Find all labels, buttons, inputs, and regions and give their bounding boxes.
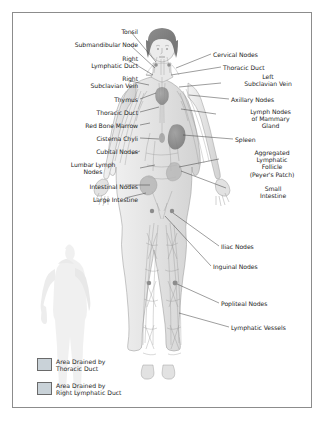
label-spleen: Spleen	[235, 136, 312, 143]
legend-label-right-lymphatic-duct: Area Drained by Right Lymphatic Duct	[56, 382, 122, 397]
popliteal-node-organ	[173, 281, 178, 286]
label-lumbar-lymph-nodes: Lumbar Lymph Nodes	[48, 161, 138, 175]
label-large-intestine: Large Intestine	[43, 196, 138, 203]
label-thoracic-duct-left: Thoracic Duct	[53, 109, 138, 116]
legend-label-thoracic-duct: Area Drained by Thoracic Duct	[56, 358, 105, 373]
inguinal-node-organ	[150, 209, 154, 213]
label-submandibular-node: Submandibular Node	[23, 41, 138, 48]
label-red-bone-marrow: Red Bone Marrow	[43, 122, 138, 129]
tonsil-organ	[154, 63, 158, 67]
legend: Area Drained by Thoracic Duct Area Drain…	[37, 358, 122, 406]
legend-swatch-right-lymphatic-duct	[37, 382, 52, 395]
legend-item-thoracic-duct-area: Area Drained by Thoracic Duct	[37, 358, 122, 373]
popliteal-node-organ-2	[147, 281, 151, 285]
label-axillary-nodes: Axillary Nodes	[231, 96, 312, 103]
diagram-canvas: Tonsil Submandibular Node Right Lymphati…	[13, 13, 311, 407]
label-right-lymphatic-duct: Right Lymphatic Duct	[33, 55, 138, 69]
cisterna-chyli-organ	[159, 133, 165, 143]
label-tonsil: Tonsil	[83, 28, 138, 35]
label-cisterna-chyli: Cisterna Chyli	[53, 135, 138, 142]
label-intestinal-nodes: Intestinal Nodes	[43, 183, 138, 190]
label-lymph-nodes-mammary-gland: Lymph Nodes of Mammary Gland	[218, 108, 312, 130]
tonsil-organ-2	[167, 63, 171, 67]
label-right-subclavian-vein: Right Subclavian Vein	[33, 75, 138, 89]
legend-item-right-lymphatic-duct-area: Area Drained by Right Lymphatic Duct	[37, 382, 122, 397]
label-lymphatic-vessels: Lymphatic Vessels	[231, 324, 312, 331]
label-iliac-nodes: Iliac Nodes	[221, 243, 311, 250]
legend-swatch-thoracic-duct	[37, 358, 52, 371]
label-cubital-nodes: Cubital Nodes	[53, 148, 138, 155]
label-popliteal-nodes: Popliteal Nodes	[221, 300, 312, 307]
label-left-subclavian-vein: Left Subclavian Vein	[213, 73, 312, 87]
label-thymus: Thymus	[73, 96, 138, 103]
label-inguinal-nodes: Inguinal Nodes	[213, 263, 308, 270]
diagram-frame: Tonsil Submandibular Node Right Lymphati…	[12, 12, 312, 408]
label-thoracic-duct-right: Thoracic Duct	[223, 64, 312, 71]
label-cervical-nodes: Cervical Nodes	[213, 51, 312, 58]
label-small-intestine: Small Intestine	[228, 185, 312, 199]
label-aggregated-lymphatic-follicle: Aggregated Lymphatic Follicle (Peyer's P…	[218, 149, 312, 178]
inguinal-node-organ-2	[170, 209, 174, 213]
